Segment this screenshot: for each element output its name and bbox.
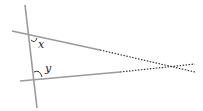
lower-line xyxy=(20,72,120,81)
lower-line-extension xyxy=(120,64,195,72)
angle-x-arc xyxy=(31,38,37,42)
upper-line xyxy=(12,31,100,50)
transversal-line xyxy=(25,5,37,108)
geometry-diagram: x y xyxy=(0,0,203,111)
angle-y-arc xyxy=(34,71,42,77)
angle-y-label: y xyxy=(44,62,52,75)
angle-x-label: x xyxy=(38,38,45,51)
